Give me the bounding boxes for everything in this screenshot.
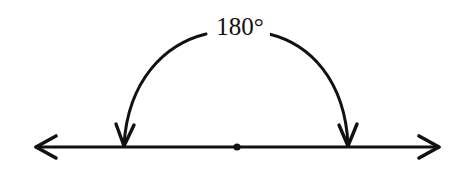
angle-label: 180° xyxy=(210,12,270,42)
right-arc xyxy=(269,34,348,145)
vertex-point xyxy=(233,143,240,150)
left-arc xyxy=(124,34,206,145)
